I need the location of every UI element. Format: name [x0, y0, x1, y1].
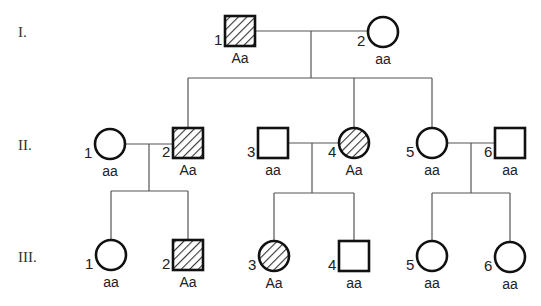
individual-ii-3: 3aa: [247, 128, 288, 178]
female-circle-icon: [95, 129, 125, 159]
individual-number: 1: [84, 144, 92, 161]
genotype-label: aa: [424, 275, 440, 291]
female-circle-affected-icon: [339, 128, 369, 158]
individual-number: 3: [247, 143, 255, 160]
genotype-label: Aa: [345, 162, 362, 178]
individual-iii-3: 3Aa: [248, 241, 289, 291]
individual-ii-5: 5aa: [406, 128, 447, 178]
individual-ii-4: 4Aa: [328, 128, 369, 178]
male-square-affected-icon: [173, 240, 203, 270]
individual-number: 4: [328, 143, 336, 160]
individual-number: 4: [328, 256, 336, 273]
individual-number: 5: [406, 143, 414, 160]
generation-labels: I.II.III.: [18, 24, 37, 265]
individuals: 1Aa2aa1aa2Aa3aa4Aa5aa6aa1aa2Aa3Aa4aa5aa6…: [84, 16, 525, 292]
individual-iii-1: 1aa: [85, 240, 126, 290]
connection-lines: [111, 31, 510, 242]
individual-ii-1: 1aa: [84, 129, 125, 179]
genotype-label: Aa: [265, 275, 282, 291]
female-circle-affected-icon: [259, 241, 289, 271]
individual-ii-2: 2Aa: [162, 128, 203, 178]
pedigree-svg: I.II.III. 1Aa2aa1aa2Aa3aa4Aa5aa6aa1aa2Aa…: [0, 0, 541, 306]
genotype-label: aa: [424, 162, 440, 178]
female-circle-icon: [417, 241, 447, 271]
genotype-label: aa: [102, 163, 118, 179]
individual-i-2: 2aa: [357, 17, 398, 67]
female-circle-icon: [495, 242, 525, 272]
individual-number: 2: [162, 143, 170, 160]
male-square-icon: [258, 128, 288, 158]
individual-number: 3: [248, 256, 256, 273]
generation-label: II.: [18, 137, 32, 153]
individual-number: 1: [214, 31, 222, 48]
male-square-affected-icon: [225, 16, 255, 46]
individual-number: 2: [357, 32, 365, 49]
individual-number: 6: [484, 143, 492, 160]
individual-number: 2: [162, 255, 170, 272]
female-circle-icon: [368, 17, 398, 47]
genotype-label: aa: [502, 276, 518, 292]
individual-iii-2: 2Aa: [162, 240, 203, 290]
pedigree-chart: I.II.III. 1Aa2aa1aa2Aa3aa4Aa5aa6aa1aa2Aa…: [0, 0, 541, 306]
genotype-label: aa: [502, 162, 518, 178]
genotype-label: aa: [375, 51, 391, 67]
generation-label: III.: [18, 249, 37, 265]
individual-number: 6: [484, 257, 492, 274]
female-circle-icon: [96, 240, 126, 270]
individual-number: 1: [85, 255, 93, 272]
male-square-icon: [339, 241, 369, 271]
individual-number: 5: [406, 256, 414, 273]
generation-label: I.: [18, 24, 27, 40]
genotype-label: Aa: [179, 274, 196, 290]
genotype-label: aa: [103, 274, 119, 290]
female-circle-icon: [417, 128, 447, 158]
genotype-label: aa: [346, 275, 362, 291]
individual-i-1: 1Aa: [214, 16, 255, 66]
genotype-label: aa: [265, 162, 281, 178]
individual-ii-6: 6aa: [484, 128, 525, 178]
male-square-affected-icon: [173, 128, 203, 158]
genotype-label: Aa: [179, 162, 196, 178]
male-square-icon: [495, 128, 525, 158]
individual-iii-6: 6aa: [484, 242, 525, 292]
individual-iii-4: 4aa: [328, 241, 369, 291]
individual-iii-5: 5aa: [406, 241, 447, 291]
genotype-label: Aa: [231, 50, 248, 66]
